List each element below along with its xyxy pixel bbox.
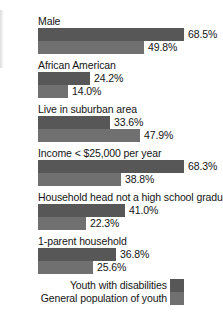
bar-row: 33.6% — [0, 116, 223, 129]
category-label: Income < $25,000 per year — [0, 146, 223, 160]
bar-group: Male68.5%49.8% — [0, 14, 223, 54]
bar — [38, 261, 93, 274]
bar-value-label: 24.2% — [94, 72, 123, 85]
bar-row: 24.2% — [0, 72, 223, 85]
bar-row: 68.5% — [0, 28, 223, 41]
bar-row: 49.8% — [0, 41, 223, 54]
bar-group: Household head not a high school graduat… — [0, 190, 223, 230]
bar-group: Income < $25,000 per year68.3%38.8% — [0, 146, 223, 186]
bar — [38, 173, 121, 186]
bar-group: Live in suburban area33.6%47.9% — [0, 102, 223, 142]
bar — [38, 72, 90, 85]
bar-value-label: 68.5% — [188, 28, 217, 41]
bar — [38, 204, 125, 217]
bar-chart: Male68.5%49.8%African American24.2%14.0%… — [0, 0, 223, 313]
bar-value-label: 47.9% — [144, 129, 173, 142]
bar-value-label: 22.3% — [90, 217, 119, 230]
bar-row: 38.8% — [0, 173, 223, 186]
bar-value-label: 38.8% — [125, 173, 154, 186]
category-label: Male — [0, 14, 223, 28]
bar-row: 36.8% — [0, 248, 223, 261]
bar-group: 1-parent household36.8%25.6% — [0, 234, 223, 274]
bar-value-label: 49.8% — [148, 41, 177, 54]
legend-item-label: Youth with disabilities — [70, 279, 167, 292]
legend-item-label: General population of youth — [41, 292, 167, 305]
bar — [38, 217, 86, 230]
bar-row: 14.0% — [0, 85, 223, 98]
bar-value-label: 36.8% — [120, 248, 149, 261]
bar-row: 47.9% — [0, 129, 223, 142]
category-label: African American — [0, 58, 223, 72]
bar-value-label: 33.6% — [114, 116, 143, 129]
bar-value-label: 25.6% — [97, 261, 126, 274]
legend-item: Youth with disabilities — [0, 279, 223, 292]
bar — [38, 85, 68, 98]
chart-plot-area: Male68.5%49.8%African American24.2%14.0%… — [0, 14, 223, 274]
bar — [38, 28, 184, 41]
bar-row: 25.6% — [0, 261, 223, 274]
bar — [38, 116, 110, 129]
bar — [38, 160, 184, 173]
bar — [38, 41, 144, 54]
legend-swatch-general-population — [170, 292, 184, 305]
bar-row: 68.3% — [0, 160, 223, 173]
category-label: 1-parent household — [0, 234, 223, 248]
chart-legend: Youth with disabilities General populati… — [0, 279, 223, 305]
bar-value-label: 14.0% — [72, 85, 101, 98]
bar — [38, 129, 140, 142]
legend-swatch-youth-with-disabilities — [170, 279, 184, 292]
bar-value-label: 68.3% — [188, 160, 217, 173]
bar-row: 22.3% — [0, 217, 223, 230]
bar — [38, 248, 116, 261]
bar-value-label: 41.0% — [129, 204, 158, 217]
bar-row: 41.0% — [0, 204, 223, 217]
legend-item: General population of youth — [0, 292, 223, 305]
category-label: Household head not a high school graduat… — [0, 190, 223, 204]
category-label: Live in suburban area — [0, 102, 223, 116]
bar-group: African American24.2%14.0% — [0, 58, 223, 98]
